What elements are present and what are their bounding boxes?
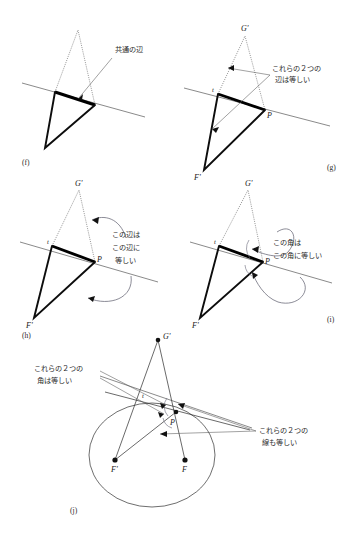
panel-j-label-gprime: G' [163, 332, 171, 341]
panel-f-solid-triangle [45, 92, 95, 148]
panel-h-label-fprime: F' [25, 321, 33, 330]
panel-i-label-gprime: G' [245, 179, 253, 188]
panel-h: この辺は この辺に 等しい G' t P F' (h) [20, 179, 158, 340]
panel-j: これらの２つの 角は等しい これらの２つの 線も等しい G' t P F' F … [34, 332, 308, 515]
panel-h-arrowhead-lower [88, 296, 95, 302]
panel-j-note-right-line1: これらの２つの [259, 426, 308, 435]
panel-h-note-line1: この辺は [112, 230, 140, 239]
panel-j-angle-arc-upper [164, 398, 168, 416]
panel-g-leader-lower [212, 75, 270, 129]
panel-j-leader-left-lower [100, 378, 164, 414]
panel-j-note-right-line2: 線も等しい [262, 438, 297, 447]
panel-i-loop-lower [252, 272, 305, 303]
panel-h-label-gprime: G' [75, 179, 83, 188]
panel-g-label-gprime: G' [241, 24, 249, 33]
panel-g-common-side [218, 94, 265, 110]
panel-g-label-p: P [266, 111, 272, 120]
figure-canvas: 共通の辺 (f) これらの２つの 辺は等しい G' t P F' (g) [0, 0, 354, 543]
panel-j-label-f: F [181, 465, 187, 474]
panel-f-note-line1: 共通の辺 [115, 45, 143, 54]
panel-f-leader-line [78, 58, 112, 99]
panel-g-label: (g) [327, 163, 336, 172]
panel-i-label-p: P [264, 257, 270, 266]
figure-page: 共通の辺 (f) これらの２つの 辺は等しい G' t P F' (g) [0, 0, 354, 543]
panel-j-label-p: P [169, 418, 175, 427]
panel-h-common-side [52, 246, 95, 262]
panel-f-common-side [55, 92, 95, 105]
panel-j-point-gprime [156, 338, 161, 343]
panel-j-label-t: t [142, 392, 144, 399]
panel-i-label-t: t [214, 238, 216, 245]
panel-j-note-left-line1: これらの２つの [34, 364, 83, 373]
panel-j-point-fprime [112, 457, 117, 462]
panel-g: これらの２つの 辺は等しい G' t P F' (g) [184, 24, 336, 182]
panel-g-note-line2: 辺は等しい [275, 75, 310, 84]
panel-j-ellipse [89, 403, 215, 507]
panel-h-note-line2: この辺に [112, 243, 140, 252]
panel-j-ray-gprime-f [158, 340, 185, 460]
panel-j-point-p [174, 410, 179, 415]
panel-h-label-p: P [96, 255, 102, 264]
panel-h-dotted-triangle [52, 190, 95, 262]
panel-i-solid-triangle [200, 246, 263, 318]
panel-j-point-f [182, 457, 187, 462]
panel-j-leader-right-upper [178, 404, 256, 431]
panel-j-note-left-line2: 角は等しい [37, 376, 72, 385]
panel-i-arrowhead-upper [252, 246, 259, 253]
panel-i-label: (i) [327, 315, 335, 324]
panel-h-solid-triangle [34, 246, 95, 318]
panel-j-leader-left-upper [100, 371, 166, 405]
panel-j-label-fprime: F' [110, 465, 118, 474]
panel-g-label-fprime: F' [193, 173, 201, 182]
panel-f-arrowhead [78, 94, 83, 100]
panel-g-note-line1: これらの２つの [272, 64, 321, 73]
panel-i-label-fprime: F' [191, 321, 199, 330]
panel-h-label: (h) [22, 331, 31, 340]
panel-j-arrowhead-left-lower [158, 412, 164, 418]
panel-i-note-line2: この角に等しい [273, 251, 322, 260]
panel-h-arrowhead-upper [92, 217, 99, 224]
panel-g-label-t: t [212, 86, 214, 93]
panel-f-label: (f) [22, 158, 30, 167]
panel-h-label-t: t [47, 238, 49, 245]
panel-h-note-line3: 等しい [115, 256, 136, 265]
panel-j-arrowhead-right-lower [160, 431, 167, 437]
panel-i-note-line1: この角は [273, 238, 301, 247]
panel-f: 共通の辺 (f) [22, 30, 145, 167]
panel-j-label: (j) [70, 506, 78, 515]
panel-g-leader-upper [228, 68, 270, 75]
panel-i: この角は この角に等しい G' t P F' (i) [190, 179, 335, 330]
panel-h-curve-arrow-lower [88, 276, 131, 301]
